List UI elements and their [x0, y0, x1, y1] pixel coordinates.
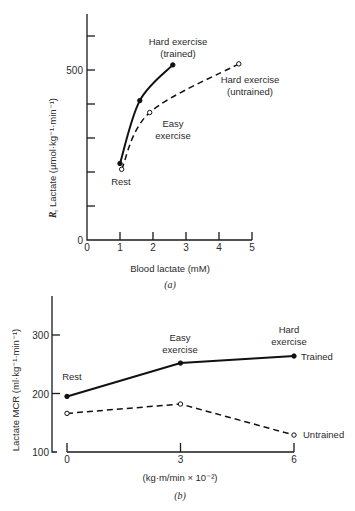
- y-tick-label: 300: [32, 330, 49, 341]
- x-tick-label: 3: [178, 454, 184, 465]
- panel-a: 0123450500 Hard exercise (trained) Hard …: [47, 14, 279, 291]
- data-point-untrained: [292, 433, 296, 437]
- annotation-hard-b-line1: Hard: [279, 324, 300, 335]
- data-point-trained: [65, 394, 69, 398]
- x-tick-label: 6: [291, 454, 297, 465]
- panel-b-y-axis-line: [52, 296, 57, 452]
- y-tick-label: 100: [32, 447, 49, 458]
- panel-a-x-axis-label: Blood lactate (mM): [130, 263, 210, 274]
- data-point-trained: [171, 63, 175, 67]
- y-tick-label: 0: [77, 235, 83, 246]
- panel-a-y-axis-label: RtLactate (µmol·kg⁻¹·min⁻¹): [47, 98, 59, 219]
- annotation-easy-b-line1: Easy: [169, 332, 190, 343]
- panel-b: 036100200300 Rest Easy exercise Hard exe…: [10, 296, 344, 502]
- annotation-hard-b-line2: exercise: [271, 336, 306, 347]
- annotation-rest: Rest: [111, 176, 131, 187]
- data-point-trained: [178, 361, 182, 365]
- data-point-untrained: [237, 62, 241, 66]
- x-tick-label: 0: [64, 454, 70, 465]
- data-point-untrained: [65, 411, 69, 415]
- x-tick-label: 1: [117, 242, 123, 253]
- data-point-untrained: [178, 402, 182, 406]
- annotation-hard-trained-line2: (trained): [160, 48, 195, 59]
- data-point-untrained: [119, 167, 123, 171]
- panel-b-axes: [52, 296, 294, 452]
- panel-a-caption: (a): [164, 279, 176, 291]
- annotation-hard-untrained-line1: Hard exercise: [221, 74, 280, 85]
- annotation-hard-trained-line1: Hard exercise: [149, 36, 208, 47]
- annotation-easy-line1: Easy: [162, 118, 183, 129]
- annotation-hard-untrained-line2: (untrained): [227, 86, 273, 97]
- y-tick-label: 200: [32, 389, 49, 400]
- panel-b-series: [65, 354, 296, 437]
- figure: 0123450500 Hard exercise (trained) Hard …: [0, 0, 355, 511]
- annotation-easy-b-line2: exercise: [162, 344, 197, 355]
- x-tick-label: 3: [183, 242, 189, 253]
- panel-b-x-axis-label: (kg·m/min × 10⁻²): [143, 472, 218, 483]
- data-point-trained: [118, 161, 122, 165]
- x-tick-label: 5: [249, 242, 255, 253]
- panel-b-caption: (b): [174, 490, 186, 502]
- x-tick-label: 2: [150, 242, 156, 253]
- legend-trained: Trained: [301, 351, 333, 362]
- annotation-rest-b: Rest: [62, 371, 82, 382]
- legend-untrained: Untrained: [303, 429, 344, 440]
- series-line-untrained: [67, 404, 294, 435]
- x-tick-label: 4: [216, 242, 222, 253]
- annotation-easy-line2: exercise: [155, 130, 190, 141]
- data-point-untrained: [148, 110, 152, 114]
- data-point-trained: [292, 354, 296, 358]
- data-point-trained: [138, 98, 142, 102]
- y-tick-label: 500: [66, 65, 83, 76]
- x-tick-label: 0: [84, 242, 90, 253]
- panel-b-y-axis-label: Lactate MCR (ml·kg⁻¹·min⁻¹): [10, 329, 21, 451]
